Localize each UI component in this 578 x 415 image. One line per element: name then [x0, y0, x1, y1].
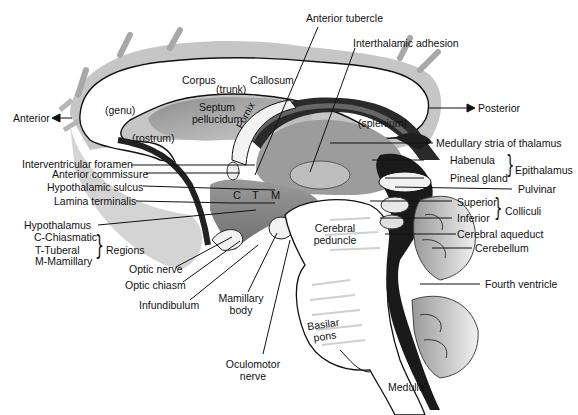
label-corpus: Corpus: [182, 74, 216, 86]
epithalamus-brace: }: [506, 153, 514, 177]
region-chiasmatic: C-Chiasmatic: [34, 231, 97, 243]
label-interthalamic-adhesion: Interthalamic adhesion: [353, 37, 459, 49]
superior-colliculus: [381, 197, 409, 213]
label-fourth-ventricle: Fourth ventricle: [485, 278, 557, 290]
label-cerebellum: Cerebellum: [475, 242, 529, 254]
label-regions: Regions: [106, 244, 145, 256]
label-pulvinar: Pulvinar: [518, 183, 556, 195]
label-inferior-colliculus: Inferior: [457, 212, 490, 224]
region-letter-t: T: [252, 189, 259, 201]
label-hypothalamic-sulcus: Hypothalamic sulcus: [47, 181, 143, 193]
label-lamina-terminalis: Lamina terminalis: [54, 195, 136, 207]
label-hypothalamus: Hypothalamus: [24, 219, 91, 231]
label-superior-colliculus: Superior: [457, 196, 497, 208]
region-letter-m: M: [271, 189, 280, 201]
label-habenula: Habenula: [450, 154, 495, 166]
label-splenium: (splenium): [358, 117, 407, 129]
interthalamic-adhesion: [290, 161, 350, 189]
region-mamillary: M-Mamillary: [35, 255, 92, 267]
label-colliculi: Colliculi: [505, 205, 541, 217]
label-pineal-gland: Pineal gland: [450, 172, 508, 184]
label-rostrum: (rostrum): [132, 132, 175, 144]
label-oculomotor-nerve: Oculomotor nerve: [223, 358, 283, 382]
label-mamillary-body: Mamillary body: [212, 292, 270, 316]
label-genu: (genu): [105, 104, 135, 116]
label-optic-nerve: Optic nerve: [129, 263, 183, 275]
regions-brace: }: [95, 232, 104, 258]
region-letter-c: C: [233, 189, 241, 201]
inferior-colliculus: [380, 215, 404, 229]
pineal-gland: [379, 172, 431, 192]
label-medulla: Medulla: [388, 381, 425, 393]
label-anterior: Anterior: [13, 112, 50, 124]
label-cerebral-aqueduct: Cerebral aqueduct: [457, 228, 543, 240]
label-medullary-stria: Medullary stria of thalamus: [436, 137, 561, 149]
label-infundibulum: Infundibulum: [139, 299, 199, 311]
label-anterior-commissure: Anterior commissure: [52, 168, 148, 180]
brain-diagram: Anterior tubercle Interthalamic adhesion…: [0, 0, 578, 415]
label-anterior-tubercle: Anterior tubercle: [306, 12, 383, 24]
label-callosum: Callosum: [250, 74, 294, 86]
label-epithalamus: Epithalamus: [515, 164, 573, 176]
label-optic-chiasm: Optic chiasm: [125, 279, 186, 291]
label-posterior: Posterior: [478, 102, 520, 114]
label-trunk: (trunk): [216, 83, 246, 95]
colliculi-brace: }: [494, 196, 502, 220]
label-cerebral-peduncle: Cerebral peduncle: [310, 222, 360, 246]
